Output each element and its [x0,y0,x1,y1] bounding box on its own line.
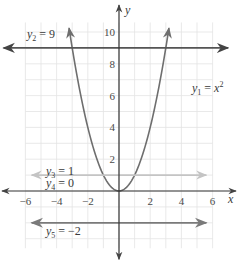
y-tick-label: 10 [104,26,116,38]
x-tick-label: −2 [82,195,94,207]
series-layer [4,28,229,223]
series-label: y2 = 9 [26,27,55,43]
y-tick-label: 4 [110,121,116,133]
x-axis-label: x [227,192,234,206]
x-tick-label: −6 [20,195,32,207]
y-axis-label: y [124,3,131,17]
graph-of-parabola-and-horizontal-lines: xy −6−4−2246246810 y1 = x2y2 = 9y3 = 1y4… [0,0,240,260]
y-tick-label: 2 [110,153,116,165]
x-tick-label: 4 [179,195,185,207]
x-tick-label: 6 [210,195,216,207]
series-label: y5 = −2 [45,224,81,240]
series-label: y4 = 0 [45,176,74,192]
series-label: y1 = x2 [191,80,223,97]
y-tick-label: 8 [110,58,116,70]
x-tick-label: 2 [147,195,153,207]
series-labels: y1 = x2y2 = 9y3 = 1y4 = 0y5 = −2 [26,27,223,240]
axes: xy [2,3,236,259]
x-tick-label: −4 [51,195,63,207]
y-tick-label: 6 [110,90,116,102]
